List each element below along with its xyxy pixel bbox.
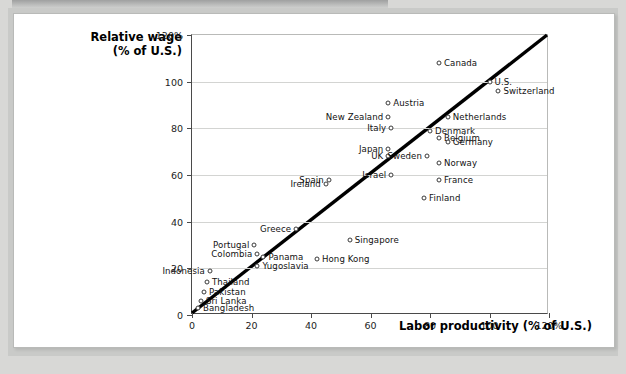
data-point-marker bbox=[487, 79, 492, 84]
x-tick-mark-40 bbox=[311, 313, 312, 318]
data-point-marker bbox=[422, 196, 427, 201]
y-tick-label-100: 100 bbox=[165, 76, 183, 87]
x-tick-mark-20 bbox=[252, 313, 253, 318]
data-point-marker bbox=[294, 226, 299, 231]
x-tick-mark-0 bbox=[192, 313, 193, 318]
data-point-label: France bbox=[444, 175, 473, 185]
data-point-marker bbox=[314, 257, 319, 262]
y-tick-mark-80 bbox=[187, 128, 192, 129]
gridline-y-20 bbox=[192, 268, 547, 269]
y-tick-label-60: 60 bbox=[171, 170, 183, 181]
data-point-marker bbox=[261, 254, 266, 259]
data-point-marker bbox=[436, 177, 441, 182]
data-point-label: Germany bbox=[453, 137, 493, 147]
data-point-marker bbox=[255, 252, 260, 257]
figure-card: Relative wage (% of U.S.) 02040608010012… bbox=[13, 13, 615, 348]
y-tick-label-80: 80 bbox=[171, 123, 183, 134]
data-point-label: Finland bbox=[429, 193, 460, 203]
data-point-marker bbox=[496, 89, 501, 94]
data-point-marker bbox=[425, 154, 430, 159]
data-point-marker bbox=[436, 135, 441, 140]
data-point-marker bbox=[252, 243, 257, 248]
data-point-label: New Zealand bbox=[326, 112, 384, 122]
data-point-marker bbox=[255, 264, 260, 269]
data-point-marker bbox=[436, 161, 441, 166]
data-point-label: Colombia bbox=[211, 249, 252, 259]
data-point-marker bbox=[323, 182, 328, 187]
gridline-y-40 bbox=[192, 222, 547, 223]
data-point-marker bbox=[436, 61, 441, 66]
data-point-label: Greece bbox=[260, 224, 291, 234]
data-point-label: Norway bbox=[444, 158, 477, 168]
data-point-marker bbox=[428, 128, 433, 133]
y-tick-label-0: 0 bbox=[177, 310, 183, 321]
figure-page: Relative wage (% of U.S.) 02040608010012… bbox=[0, 0, 626, 374]
y-tick-mark-40 bbox=[187, 222, 192, 223]
y-axis-title-line2: (% of U.S.) bbox=[32, 44, 182, 58]
data-point-label: Israel bbox=[362, 170, 386, 180]
data-point-marker bbox=[347, 238, 352, 243]
data-point-label: Netherlands bbox=[453, 112, 507, 122]
data-point-label: Italy bbox=[367, 123, 386, 133]
data-point-label: Indonesia bbox=[162, 266, 204, 276]
y-tick-label-120: 120% bbox=[156, 30, 183, 41]
data-point-marker bbox=[389, 173, 394, 178]
data-point-marker bbox=[207, 268, 212, 273]
x-tick-mark-80 bbox=[430, 313, 431, 318]
x-tick-mark-60 bbox=[371, 313, 372, 318]
x-tick-label-20: 20 bbox=[245, 320, 257, 331]
data-point-label: Sweden bbox=[387, 151, 422, 161]
data-point-marker bbox=[204, 280, 209, 285]
data-point-marker bbox=[445, 114, 450, 119]
data-point-label: Canada bbox=[444, 58, 477, 68]
data-point-marker bbox=[195, 306, 200, 311]
data-point-marker bbox=[445, 140, 450, 145]
data-point-label: Switzerland bbox=[503, 86, 554, 96]
data-point-label: Yugoslavia bbox=[262, 261, 308, 271]
x-tick-mark-100 bbox=[490, 313, 491, 318]
data-point-label: Bangladesh bbox=[203, 303, 254, 313]
scatter-plot-area: 020406080100120% 020406080100120% Canada… bbox=[191, 34, 548, 314]
data-point-label: Austria bbox=[393, 98, 424, 108]
data-point-marker bbox=[386, 114, 391, 119]
x-tick-mark-120 bbox=[549, 313, 550, 318]
data-point-label: Hong Kong bbox=[322, 254, 370, 264]
x-tick-label-0: 0 bbox=[189, 320, 195, 331]
y-tick-mark-120 bbox=[187, 35, 192, 36]
y-tick-mark-100 bbox=[187, 82, 192, 83]
data-point-label: UK bbox=[371, 151, 383, 161]
x-tick-label-40: 40 bbox=[305, 320, 317, 331]
data-point-marker bbox=[201, 289, 206, 294]
x-axis-title: Labor productivity (% of U.S.) bbox=[399, 319, 592, 333]
y-tick-mark-60 bbox=[187, 175, 192, 176]
data-point-marker bbox=[389, 126, 394, 131]
x-tick-label-60: 60 bbox=[364, 320, 376, 331]
data-point-marker bbox=[386, 100, 391, 105]
data-point-label: Singapore bbox=[355, 235, 399, 245]
y-tick-label-40: 40 bbox=[171, 216, 183, 227]
data-point-label: Ireland bbox=[290, 179, 320, 189]
